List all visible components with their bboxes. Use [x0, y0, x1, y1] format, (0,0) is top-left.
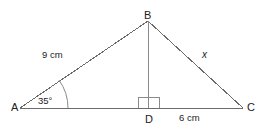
- geometry-diagram: A B C D 9 cm x 6 cm 35°: [0, 0, 263, 127]
- vertex-label-b: B: [144, 10, 151, 21]
- triangle-figure: [0, 0, 263, 127]
- vertex-label-a: A: [11, 102, 18, 113]
- angle-arc-a-icon: [59, 80, 68, 108]
- side-length-label-bc: x: [202, 50, 207, 60]
- vertex-label-d: D: [145, 114, 153, 125]
- segment-bc-line: [148, 21, 243, 108]
- side-length-label-dc: 6 cm: [179, 113, 200, 123]
- angle-measure-label-a: 35°: [38, 96, 52, 106]
- side-length-label-ab: 9 cm: [42, 50, 63, 60]
- vertex-label-c: C: [247, 102, 255, 113]
